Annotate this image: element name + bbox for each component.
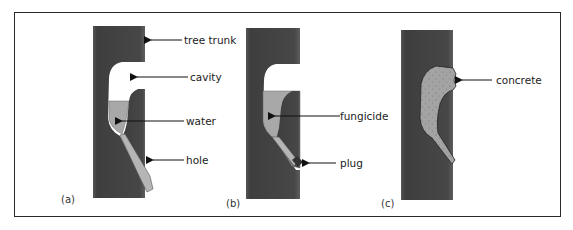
panel-label-a: (a) <box>61 194 75 205</box>
panel-label-b: (b) <box>226 198 240 209</box>
label-tree-trunk: tree trunk <box>184 34 236 46</box>
label-cavity: cavity <box>190 71 222 83</box>
panel-c-tree <box>401 30 456 200</box>
label-plug: plug <box>340 157 363 169</box>
label-hole: hole <box>186 154 208 166</box>
panel-label-c: (c) <box>381 198 394 209</box>
label-fungicide: fungicide <box>340 110 388 122</box>
diagram-drawing <box>0 0 573 230</box>
panel-a-tree <box>93 26 153 198</box>
panel-b-tree <box>246 28 303 199</box>
label-concrete: concrete <box>496 74 542 86</box>
label-water: water <box>186 115 216 127</box>
diagram-figure: tree trunk cavity water hole fungicide p… <box>0 0 573 230</box>
